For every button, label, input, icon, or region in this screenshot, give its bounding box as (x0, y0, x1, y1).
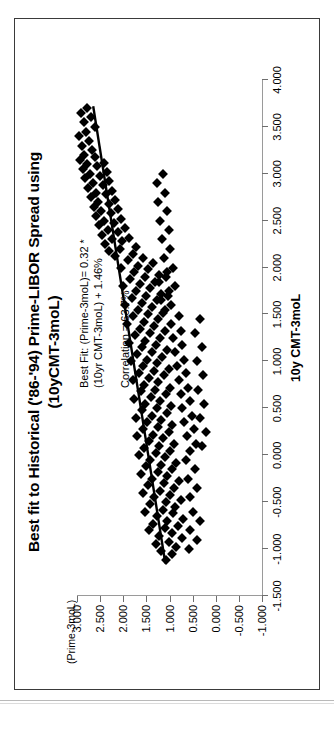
x-axis-tick (262, 267, 268, 268)
x-axis-tick-label: 2.500 (271, 207, 283, 235)
x-axis-title: 10y CMT-3moL (289, 80, 303, 596)
chart-title-line-1: Best fit to Historical ('86-'94) Prime-L… (25, 16, 43, 688)
chart-frame: Best fit to Historical ('86-'94) Prime-L… (14, 18, 320, 690)
y-axis-tick (262, 596, 263, 602)
y-axis-tick-label: 1.000 (164, 605, 176, 633)
x-axis-tick-label: -1.000 (271, 534, 283, 565)
y-axis-tick (170, 596, 171, 602)
y-axis-tick-label: -0.500 (233, 605, 245, 636)
x-axis-tick (262, 173, 268, 174)
x-axis-tick-label: 1.000 (271, 348, 283, 376)
chart-title-line-2: (10yCMT-3moL) (45, 16, 63, 688)
x-axis-tick-label: 2.000 (271, 254, 283, 282)
y-axis-tick (123, 596, 124, 602)
y-axis-tick-label: 1.500 (140, 605, 152, 633)
y-axis-tick-label: 2.500 (94, 605, 106, 633)
page-divider-line-secondary (0, 703, 334, 704)
x-axis-tick (262, 79, 268, 80)
y-axis-tick-label: 3.000 (71, 605, 83, 633)
y-axis-tick-label: 2.000 (117, 605, 129, 633)
x-axis-line (262, 80, 263, 596)
y-axis-tick-label: 0.500 (187, 605, 199, 633)
x-axis-tick (262, 501, 268, 502)
x-axis-tick-label: -0.500 (271, 487, 283, 518)
y-axis-tick (216, 596, 217, 602)
y-axis-tick (100, 596, 101, 602)
x-axis-tick-label: 3.500 (271, 113, 283, 141)
x-axis-tick (262, 314, 268, 315)
y-axis-tick (77, 596, 78, 602)
y-axis-tick-label: -1.000 (256, 605, 268, 636)
scatter-plot-area (77, 80, 262, 596)
x-axis-tick (262, 361, 268, 362)
x-axis-tick (262, 548, 268, 549)
y-axis-tick (193, 596, 194, 602)
x-axis-tick-label: 4.000 (271, 66, 283, 94)
x-axis-tick-label: 3.000 (271, 160, 283, 188)
y-axis-tick-labels: -1.000-0.5000.0000.5001.0001.5002.0002.5… (15, 605, 318, 688)
x-axis-tick (262, 220, 268, 221)
x-axis-tick-label: 0.000 (271, 442, 283, 470)
x-axis-tick (262, 126, 268, 127)
chart-rotation-wrapper: Best fit to Historical ('86-'94) Prime-L… (15, 16, 318, 688)
x-axis-tick (262, 454, 268, 455)
screenshot-page: Best fit to Historical ('86-'94) Prime-L… (0, 0, 334, 729)
x-axis-tick (262, 407, 268, 408)
y-axis-tick (146, 596, 147, 602)
x-axis-tick-label: 1.500 (271, 301, 283, 329)
y-axis-tick (239, 596, 240, 602)
y-axis-tick-label: 0.000 (210, 605, 222, 633)
page-divider-line (0, 700, 334, 701)
x-axis-tick-label: 0.500 (271, 395, 283, 423)
